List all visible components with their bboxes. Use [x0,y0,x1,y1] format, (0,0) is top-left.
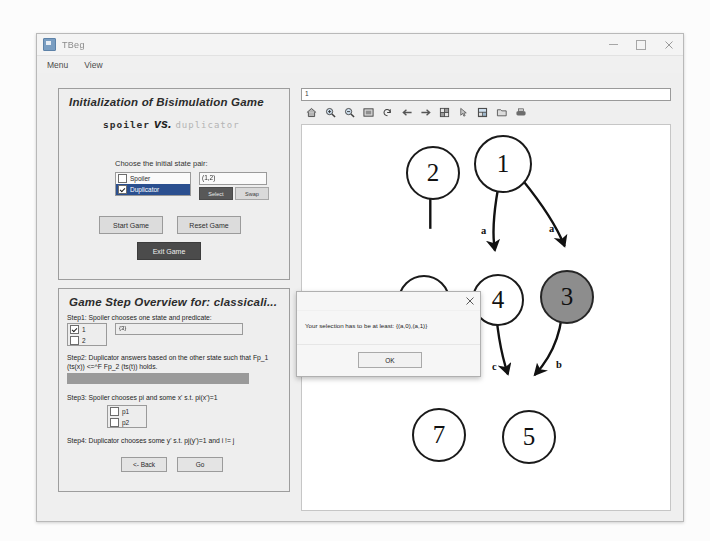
node-label: 2 [427,159,440,187]
graph-node-1[interactable]: 1 [474,135,532,193]
dialog-separator [297,344,480,345]
step3-option-list[interactable]: p1 p2 [107,405,147,428]
close-icon [665,41,673,49]
role-option-duplicator[interactable]: Duplicator [116,184,190,195]
step1-predicate-input[interactable]: {3} [115,323,243,335]
step1-text: Step1: Spoiler chooses one state and pre… [67,313,281,322]
edge-label-c-4-5: c [492,361,497,372]
dialog-title-bar [297,292,480,311]
step1-option-2[interactable]: 2 [68,335,106,346]
spoiler-label: spoiler [103,119,150,130]
screenshot-root: TBeg Menu View Initialization of Bisimul… [0,0,710,541]
application-icon [43,38,56,51]
step3-option-p2[interactable]: p2 [108,417,146,428]
menu-bar: Menu View [37,56,683,74]
duplicator-label: duplicator [175,120,239,130]
step1-option-1[interactable]: 1 [68,324,106,335]
window-title: TBeg [62,40,85,50]
pointer-icon[interactable] [455,104,472,121]
checkbox-icon[interactable] [70,325,79,334]
print-icon[interactable] [512,104,529,121]
graph-node-2[interactable]: 2 [406,146,460,200]
minimize-button[interactable] [599,34,627,55]
reset-game-button[interactable]: Reset Game [177,216,241,234]
dialog-ok-button[interactable]: OK [358,352,422,368]
role-option-list[interactable]: Spoiler Duplicator [115,172,191,196]
back-button[interactable]: <- Back [121,457,167,472]
role-option-label: Spoiler [130,175,150,182]
step2-answer-bar[interactable] [67,373,249,384]
step3-option-label: p2 [122,419,129,426]
graph-node-3[interactable]: 3 [540,270,594,324]
vs-label: vs. [154,117,171,131]
checkbox-icon[interactable] [110,407,119,416]
step1-option-label: 1 [82,326,86,333]
role-option-label: Duplicator [130,186,159,193]
title-bar: TBeg [37,34,683,56]
open-folder-icon[interactable] [493,104,510,121]
graph-toolbar [301,104,671,121]
layout-icon[interactable] [474,104,491,121]
choose-initial-pair-label: Choose the initial state pair: [115,159,208,168]
zoom-out-icon[interactable] [341,104,358,121]
game-step-overview-title: Game Step Overview for: classicali... [69,296,277,308]
home-icon[interactable] [303,104,320,121]
step4-text: Step4: Duplicator chooses some y' s.t. p… [67,436,281,445]
fit-screen-icon[interactable] [360,104,377,121]
role-option-spoiler[interactable]: Spoiler [116,173,190,184]
node-label: 4 [492,286,505,314]
node-label: 5 [523,423,536,451]
exit-game-button[interactable]: Exit Game [137,242,201,260]
close-icon [466,297,474,305]
graph-node-7[interactable]: 7 [412,408,466,462]
step2-text: Step2: Duplicator answers based on the o… [67,353,281,371]
grid-icon[interactable] [436,104,453,121]
edge-1-4 [494,189,498,250]
dialog-close-button[interactable] [463,294,477,307]
node-label: 7 [433,421,446,449]
edge-1-3 [523,180,565,246]
start-game-button[interactable]: Start Game [99,216,163,234]
arrow-right-icon[interactable] [417,104,434,121]
game-step-overview-panel: Game Step Overview for: classicali... St… [58,288,290,492]
node-label: 3 [561,283,574,311]
alert-dialog: Your selection has to be at least: {(a,0… [296,291,481,377]
step1-option-list[interactable]: 1 2 [67,323,107,346]
application-window: TBeg Menu View Initialization of Bisimul… [36,33,684,522]
close-button[interactable] [655,34,683,55]
go-button[interactable]: Go [177,457,223,472]
checkbox-icon[interactable] [118,174,127,183]
step3-option-label: p1 [122,408,129,415]
step1-option-label: 2 [82,337,86,344]
graph-location-input[interactable]: 1 [301,88,671,101]
window-client-area: Initialization of Bisimulation Game spoi… [37,73,683,521]
initialization-panel-title: Initialization of Bisimulation Game [69,96,264,108]
step3-text: Step3: Spoiler chooses pi and some x' s.… [67,393,281,402]
maximize-button[interactable] [627,34,655,55]
menu-item-menu[interactable]: Menu [47,60,68,70]
zoom-in-icon[interactable] [322,104,339,121]
node-label: 1 [497,150,510,178]
checkbox-icon[interactable] [110,418,119,427]
arrow-left-icon[interactable] [398,104,415,121]
edge-label-b-3-5: b [556,359,562,370]
dialog-message: Your selection has to be at least: {(a,0… [305,322,472,329]
checkbox-icon[interactable] [118,185,127,194]
graph-node-5[interactable]: 5 [502,410,556,464]
edge-label-a-1-3: a [549,223,554,234]
state-pair-input[interactable]: (1,2) [199,172,267,185]
rotate-icon[interactable] [379,104,396,121]
step3-option-p1[interactable]: p1 [108,406,146,417]
faded-button [65,455,103,467]
checkbox-icon[interactable] [70,336,79,345]
edge-label-a-1-4: a [481,225,486,236]
players-row: spoiler vs. duplicator [103,117,240,131]
swap-button[interactable]: Swap [235,187,269,200]
left-column: Initialization of Bisimulation Game spoi… [58,88,290,492]
menu-item-view[interactable]: View [84,60,102,70]
initialization-panel: Initialization of Bisimulation Game spoi… [58,88,290,280]
select-button[interactable]: Select [199,187,233,200]
